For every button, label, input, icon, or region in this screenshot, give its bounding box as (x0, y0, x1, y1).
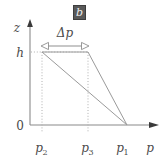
figure-container: b z p h 0 Δp p (0, 0, 164, 162)
x-tick-p2-sub: 2 (42, 148, 47, 157)
delta-arrow-right-icon (82, 42, 90, 49)
y-axis-arrow-icon (27, 19, 33, 27)
x-tick-label-p2: p 2 (35, 141, 47, 157)
y-tick-label-h: h (16, 46, 24, 60)
profile-outer-slope-line (42, 52, 127, 125)
delta-arrow-left-icon (41, 42, 49, 49)
x-axis-arrow-icon (149, 122, 159, 128)
x-tick-p1-sub: 1 (123, 148, 128, 157)
y-axis-label: z (13, 21, 21, 35)
delta-p-label: Δp (56, 26, 74, 40)
profile-inner-slope-line (88, 52, 127, 125)
x-tick-label-p3: p 3 (81, 141, 93, 157)
origin-label: 0 (16, 119, 24, 133)
figure-svg: z p h 0 Δp p 2 p 3 p 1 (0, 0, 164, 162)
x-tick-label-p1: p 1 (116, 141, 128, 157)
x-tick-p3-sub: 3 (88, 148, 93, 157)
x-axis-label: p (146, 141, 154, 155)
